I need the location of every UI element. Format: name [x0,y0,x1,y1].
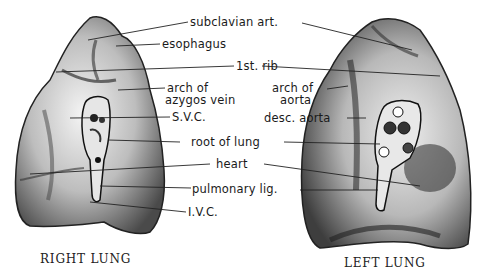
caption-right-lung: RIGHT LUNG [40,252,131,266]
label-ivc: I.V.C. [188,206,218,218]
lung-medial-diagram: subclavian art. esophagus 1st. rib arch … [0,0,494,276]
label-subclavian-artery: subclavian art. [190,16,278,28]
label-heart: heart [216,158,248,170]
label-arch-azygos-2: azygos vein [165,94,235,106]
label-desc-aorta: desc. aorta [264,112,331,124]
label-arch-aorta-2: aorta [280,94,311,106]
label-pulmonary-ligament: pulmonary lig. [192,183,278,195]
caption-left-lung: LEFT LUNG [344,256,426,270]
right-lung [16,17,165,234]
left-lung [302,19,471,249]
label-root-of-lung: root of lung [191,136,260,148]
label-svc: S.V.C. [172,111,206,123]
label-first-rib: 1st. rib [236,60,278,72]
label-esophagus: esophagus [162,38,226,50]
